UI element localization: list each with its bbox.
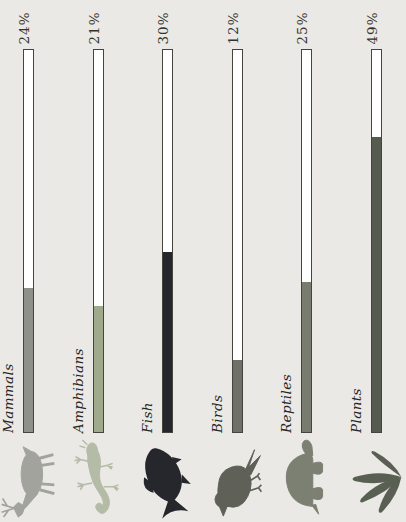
bar-track-fish — [162, 49, 173, 433]
category-label: Fish — [140, 402, 154, 433]
value-label: 30% — [156, 0, 170, 58]
category-label: Reptiles — [279, 374, 293, 433]
bar-fill-fish — [163, 252, 172, 432]
turtle-icon — [276, 438, 334, 520]
chart-row-mammals: Mammals 24% — [0, 0, 64, 522]
category-label: Amphibians — [71, 348, 85, 433]
chart-row-reptiles: Reptiles 25% — [272, 0, 342, 522]
bar-track-birds — [232, 49, 243, 433]
chart-row-amphibians: Amphibians 21% — [64, 0, 134, 522]
bar-track-amphibians — [93, 49, 104, 433]
deer-icon — [0, 438, 56, 520]
chart-row-fish: Fish 30% — [133, 0, 203, 522]
category-label: Plants — [349, 388, 363, 433]
value-label: 12% — [226, 0, 240, 58]
bar-track-plants — [371, 49, 382, 433]
value-label: 24% — [17, 0, 31, 58]
salamander-icon — [68, 438, 126, 520]
bar-fill-amphibians — [94, 306, 103, 432]
value-label: 25% — [295, 0, 309, 58]
fish-icon — [137, 438, 195, 520]
bar-fill-mammals — [24, 288, 33, 432]
bar-fill-plants — [372, 137, 381, 432]
bar-fill-birds — [233, 360, 242, 432]
category-label: Mammals — [1, 363, 15, 433]
leaves-icon — [346, 438, 404, 520]
bar-track-mammals — [23, 49, 34, 433]
value-label: 49% — [365, 0, 379, 58]
chart-row-birds: Birds 12% — [203, 0, 273, 522]
category-label: Birds — [210, 395, 224, 433]
bar-track-reptiles — [301, 49, 312, 433]
value-label: 21% — [87, 0, 101, 58]
chart-row-plants: Plants 49% — [342, 0, 406, 522]
bar-fill-reptiles — [302, 282, 311, 432]
bird-icon — [207, 438, 265, 520]
